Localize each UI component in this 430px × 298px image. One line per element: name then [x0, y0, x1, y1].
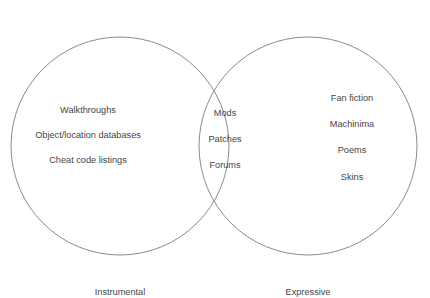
intersection-item: Mods: [185, 109, 265, 118]
right-set-label: Expressive: [248, 288, 368, 297]
intersection-item-list: Mods Patches Forums: [185, 109, 265, 188]
left-set-item: Cheat code listings: [0, 156, 176, 165]
left-set-item: Object/location databases: [0, 131, 176, 140]
left-set-label: Instrumental: [60, 288, 180, 297]
intersection-item: Patches: [185, 135, 265, 144]
left-set-item-list: Walkthroughs Object/location databases C…: [0, 106, 176, 182]
right-set-item: Poems: [302, 146, 402, 155]
right-set-item-list: Fan fiction Machinima Poems Skins: [302, 94, 402, 199]
intersection-item: Forums: [185, 161, 265, 170]
left-set-item: Walkthroughs: [0, 106, 176, 115]
right-set-item: Skins: [302, 173, 402, 182]
right-set-item: Fan fiction: [302, 94, 402, 103]
right-set-item: Machinima: [302, 120, 402, 129]
venn-diagram-figure: Walkthroughs Object/location databases C…: [0, 0, 430, 298]
